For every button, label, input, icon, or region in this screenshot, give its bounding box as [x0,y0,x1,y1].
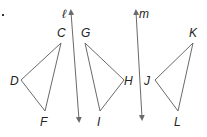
bullet-dot [2,14,4,16]
line-l-label: ℓ [62,7,67,21]
triangle-ghi [85,43,124,111]
triangle-jkl [155,43,193,111]
line-m-label: m [139,7,149,21]
vertex-c-label: C [57,26,66,40]
vertex-d-label: D [10,74,19,88]
vertex-i-label: I [97,115,101,129]
vertex-f-label: F [40,115,48,129]
line-l [71,12,79,120]
vertex-k-label: K [189,26,198,40]
vertex-g-label: G [81,26,90,40]
vertex-j-label: J [143,74,151,88]
vertex-l-label: L [174,115,181,129]
vertex-h-label: H [124,74,133,88]
reflection-diagram: ℓ m C D F G H I J K L [0,0,207,137]
line-m [136,12,142,118]
triangle-cdf [21,43,61,111]
